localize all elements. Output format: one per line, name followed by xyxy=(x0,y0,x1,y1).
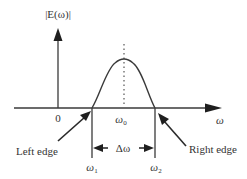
left-edge-pointer-arrow xyxy=(58,117,85,141)
bandwidth-diagram: |E(ω)| ω 0 ω0 Δω ω1 ω2 Left edge Right e… xyxy=(0,0,247,179)
y-axis-arrowhead-icon xyxy=(54,28,63,41)
y-axis-label: |E(ω)| xyxy=(45,8,71,21)
center-frequency-label: ω0 xyxy=(115,113,127,127)
bandwidth-left-arrow-icon xyxy=(93,144,103,152)
bandwidth-label: Δω xyxy=(116,142,130,154)
right-edge-pointer-arrow xyxy=(164,121,186,146)
origin-label: 0 xyxy=(55,112,61,124)
right-edge-label: Right edge xyxy=(189,143,237,155)
left-frequency-label: ω1 xyxy=(86,161,98,175)
x-axis-label: ω xyxy=(216,114,224,126)
bandwidth-right-arrow-icon xyxy=(144,144,154,152)
y-axis xyxy=(54,28,63,108)
right-frequency-label: ω2 xyxy=(150,161,162,175)
right-edge-arrowhead-icon xyxy=(158,113,169,125)
left-edge-label: Left edge xyxy=(16,145,58,157)
x-axis-arrowhead-icon xyxy=(205,104,222,113)
x-axis xyxy=(14,104,222,113)
spectrum-curve xyxy=(92,59,155,108)
